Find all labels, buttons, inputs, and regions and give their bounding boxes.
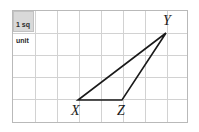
geometry-diagram-screenshot: 1 sq unit XZY xyxy=(0,0,199,132)
vertex-label-y: Y xyxy=(163,14,171,28)
triangle-xyz-shape xyxy=(78,33,166,100)
vertex-label-x: X xyxy=(71,104,80,118)
vertex-label-z: Z xyxy=(117,104,125,118)
